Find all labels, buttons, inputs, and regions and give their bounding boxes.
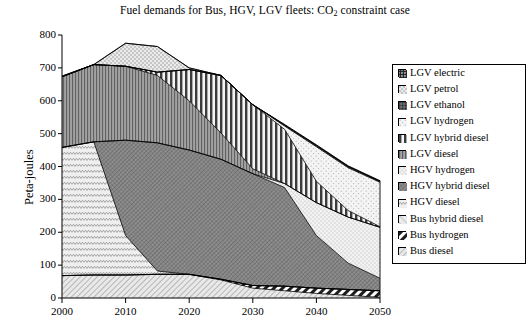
legend-item-label: LGV diesel	[410, 149, 459, 160]
y-tick-label: 600	[18, 94, 56, 106]
x-tick-label: 2040	[291, 305, 341, 317]
y-tick-label: 400	[18, 160, 56, 172]
legend-swatch-icon	[398, 150, 406, 158]
legend-item[interactable]: HGV hydrogen	[393, 162, 525, 178]
x-tick-label: 2050	[355, 305, 405, 317]
legend-item[interactable]: HGV diesel	[393, 195, 525, 211]
legend-item-label: LGV hydrogen	[410, 116, 474, 127]
y-tick-label: 100	[18, 258, 56, 270]
title-main: Fuel demands for Bus, HGV, LGV fleets: C…	[120, 4, 334, 16]
x-tick-label: 2030	[228, 305, 278, 317]
legend-item[interactable]: LGV ethanol	[393, 97, 525, 113]
legend-swatch-icon	[398, 101, 406, 109]
legend-item[interactable]: HGV hybrid diesel	[393, 178, 525, 194]
legend: LGV electricLGV petrolLGV ethanolLGV hyd…	[392, 64, 526, 264]
legend-item-label: Bus hybrid diesel	[410, 214, 484, 225]
page-title: Fuel demands for Bus, HGV, LGV fleets: C…	[0, 4, 530, 18]
legend-item-label: LGV hybrid diesel	[410, 133, 489, 144]
x-tick-label: 2020	[164, 305, 214, 317]
y-tick-label: 0	[18, 291, 56, 303]
legend-swatch-icon	[398, 118, 406, 126]
y-tick-label: 800	[18, 28, 56, 40]
title-tail: constraint case	[338, 4, 411, 16]
legend-item-label: HGV hydrogen	[410, 165, 475, 176]
legend-swatch-icon	[398, 215, 406, 223]
legend-item[interactable]: LGV diesel	[393, 146, 525, 162]
legend-item-label: Bus diesel	[410, 246, 453, 257]
legend-item-label: LGV electric	[410, 68, 465, 79]
legend-swatch-icon	[398, 247, 406, 255]
stacked-areas	[62, 43, 380, 298]
y-tick-label: 200	[18, 225, 56, 237]
legend-item[interactable]: LGV electric	[393, 65, 525, 81]
legend-swatch-icon	[398, 134, 406, 142]
legend-swatch-icon	[398, 182, 406, 190]
legend-item[interactable]: LGV hybrid diesel	[393, 130, 525, 146]
x-tick-label: 2000	[37, 305, 87, 317]
legend-item-label: Bus hydrogen	[410, 230, 469, 241]
legend-item[interactable]: LGV petrol	[393, 81, 525, 97]
plot-area	[62, 43, 380, 298]
legend-item-label: LGV petrol	[410, 84, 459, 95]
legend-swatch-icon	[398, 231, 406, 239]
y-tick-label: 300	[18, 192, 56, 204]
legend-swatch-icon	[398, 199, 406, 207]
legend-swatch-icon	[398, 166, 406, 174]
legend-item-label: LGV ethanol	[410, 100, 465, 111]
legend-item[interactable]: LGV hydrogen	[393, 114, 525, 130]
legend-item[interactable]: Bus hydrogen	[393, 227, 525, 243]
y-tick-label: 500	[18, 127, 56, 139]
y-tick-label: 700	[18, 61, 56, 73]
legend-item-label: HGV diesel	[410, 197, 460, 208]
legend-item[interactable]: Bus diesel	[393, 243, 525, 259]
legend-item[interactable]: Bus hybrid diesel	[393, 211, 525, 227]
legend-swatch-icon	[398, 85, 406, 93]
legend-swatch-icon	[398, 69, 406, 77]
legend-item-label: HGV hybrid diesel	[410, 181, 490, 192]
x-tick-label: 2010	[101, 305, 151, 317]
